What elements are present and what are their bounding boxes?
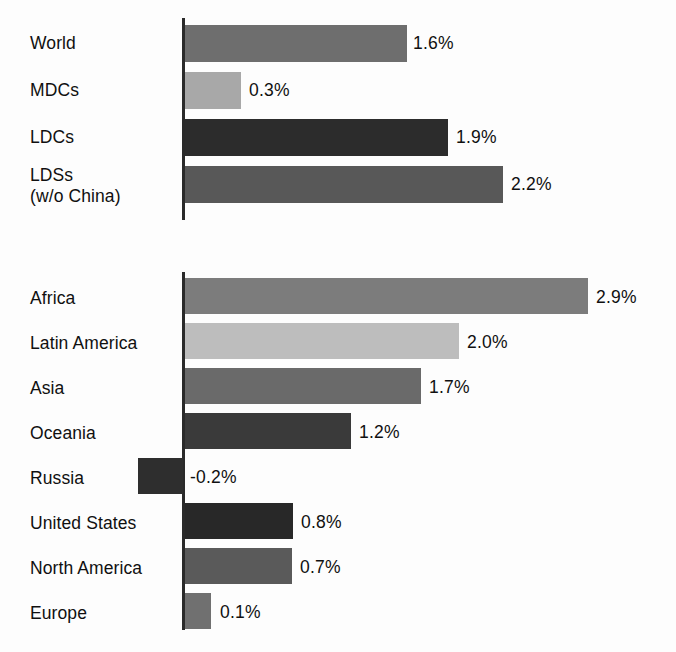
bar-europe	[185, 593, 211, 629]
category-label-europe: Europe	[30, 603, 87, 623]
category-label-asia: Asia	[30, 378, 64, 398]
value-label-world: 1.6%	[413, 33, 454, 53]
value-label-asia: 1.7%	[429, 377, 470, 397]
category-label-oceania: Oceania	[30, 423, 96, 443]
category-label-ldcs: LDCs	[30, 127, 74, 147]
value-label-united-states: 0.8%	[301, 512, 342, 532]
bar-mdcs	[185, 72, 241, 109]
chart-panel-aggregate-groups: World 1.6% MDCs 0.3% LDCs 1.9% LDSs (w/o…	[0, 0, 676, 250]
value-label-mdcs: 0.3%	[249, 80, 290, 100]
value-label-latin-america: 2.0%	[467, 332, 508, 352]
category-label-world: World	[30, 33, 76, 53]
category-label-ldss-sub: (w/o China)	[30, 186, 121, 206]
bar-latin-america	[185, 323, 459, 359]
bar-ldss	[185, 166, 503, 203]
category-label-united-states: United States	[30, 513, 136, 533]
category-label-mdcs: MDCs	[30, 80, 79, 100]
value-label-africa: 2.9%	[596, 287, 637, 307]
bar-world	[185, 25, 407, 62]
chart-panel-regions: Africa 2.9% Latin America 2.0% Asia 1.7%…	[0, 250, 676, 652]
bar-asia	[185, 368, 421, 404]
category-label-north-america: North America	[30, 558, 142, 578]
category-label-africa: Africa	[30, 288, 75, 308]
bar-united-states	[185, 503, 293, 539]
bar-africa	[185, 278, 588, 314]
bar-north-america	[185, 548, 292, 584]
category-label-ldss: LDSs	[30, 165, 73, 185]
population-growth-bar-chart-figure: World 1.6% MDCs 0.3% LDCs 1.9% LDSs (w/o…	[0, 0, 676, 652]
value-label-ldcs: 1.9%	[456, 127, 497, 147]
value-label-russia: -0.2%	[190, 467, 237, 487]
value-label-europe: 0.1%	[220, 602, 261, 622]
value-label-oceania: 1.2%	[359, 422, 400, 442]
category-label-latin-america: Latin America	[30, 333, 137, 353]
value-label-north-america: 0.7%	[300, 557, 341, 577]
bar-oceania	[185, 413, 351, 449]
bar-ldcs	[185, 119, 448, 156]
category-label-russia: Russia	[30, 468, 84, 488]
bar-russia	[138, 458, 183, 494]
value-label-ldss: 2.2%	[511, 174, 552, 194]
